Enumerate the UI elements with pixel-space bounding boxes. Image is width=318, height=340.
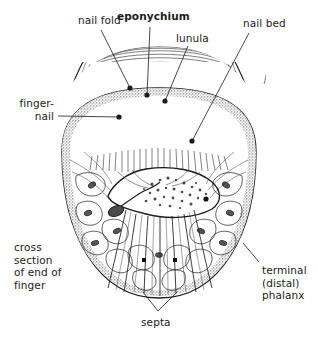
eponychium-leader: [147, 27, 150, 95]
label-eponychium: eponychium: [117, 10, 190, 23]
label-septa: septa: [141, 316, 171, 329]
finger-pulp-cross-section: [62, 88, 256, 298]
label-lunula: lunula: [176, 32, 209, 45]
nail-fold-leader: [101, 30, 130, 88]
label-cross-section-of-end-of-finger: cross section of end of finger: [14, 241, 62, 291]
label-terminal-distal-phalanx: terminal (distal) phalanx: [262, 264, 307, 302]
label-nail-fold: nail fold: [78, 14, 121, 27]
terminal-phalanx-leader: [243, 243, 259, 262]
label-finger-nail: finger- nail: [0, 97, 54, 122]
label-nail-bed: nail bed: [243, 17, 286, 30]
fingertip-cross-section-figure: nail fold eponychium lunula nail bed fin…: [0, 0, 318, 340]
